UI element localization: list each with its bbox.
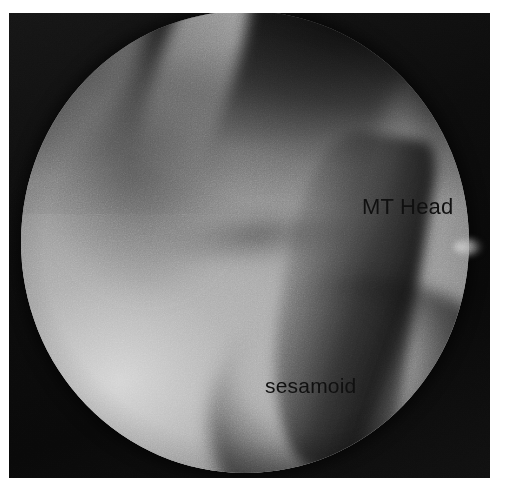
figure-root: MT Head sesamoid — [0, 0, 505, 491]
scope-edge-reflection — [453, 237, 487, 257]
scope-vignette — [21, 13, 469, 473]
scope-circular-field-of-view — [21, 13, 469, 473]
arthroscopic-photograph: MT Head sesamoid — [9, 13, 490, 478]
annotation-label-mt-head: MT Head — [362, 196, 453, 218]
annotation-label-sesamoid: sesamoid — [265, 375, 356, 396]
